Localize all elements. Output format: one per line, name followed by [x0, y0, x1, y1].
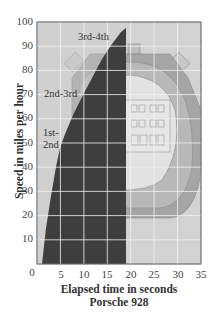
x-tick-20: 20 [121, 268, 141, 280]
x-tick-30: 30 [168, 268, 188, 280]
y-tick-100: 100 [9, 15, 33, 27]
x-tick-25: 25 [144, 268, 164, 280]
annotation-1st-2nd: 1st- 2nd [43, 127, 59, 151]
y-tick-20: 20 [9, 208, 33, 220]
x-tick-0: 0 [22, 266, 42, 278]
y-axis-label: Speed in miles per hour [13, 76, 25, 206]
x-tick-5: 5 [51, 268, 71, 280]
chart-subtitle: Porsche 928 [37, 296, 201, 308]
x-axis-label: Elapsed time in seconds [37, 283, 201, 295]
x-tick-35: 35 [191, 268, 211, 280]
y-tick-10: 10 [9, 232, 33, 244]
annotation-3rd-4th: 3rd-4th [78, 31, 109, 43]
x-tick-15: 15 [97, 268, 117, 280]
y-tick-90: 90 [9, 39, 33, 51]
y-tick-80: 80 [9, 63, 33, 75]
x-tick-10: 10 [74, 268, 94, 280]
speed-chart: 100 90 80 70 60 50 40 30 20 10 0 5 10 15… [0, 0, 215, 315]
annotation-2nd-3rd: 2nd-3rd [44, 88, 77, 100]
